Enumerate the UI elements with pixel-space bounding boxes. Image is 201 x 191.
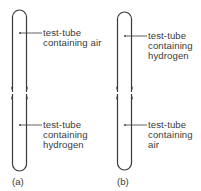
panel-a-top-label: test-tube containing air — [43, 28, 101, 48]
panel-b-caption: (b) — [117, 177, 129, 187]
panel-a-lower-tube — [13, 94, 27, 171]
panel-b-lower-tube — [118, 94, 132, 170]
panel-b-joint — [117, 86, 133, 100]
panel-a-bottom-label: test-tube containing hydrogen — [43, 120, 88, 150]
panel-b-bottom-label: test-tube containing air — [148, 120, 193, 150]
label-line: containing air — [43, 38, 101, 48]
panel-b-tubes — [117, 12, 147, 170]
panel-a-upper-tube — [13, 10, 27, 92]
panel-b-top-label: test-tube containing hydrogen — [148, 31, 193, 61]
panel-a-joint — [12, 86, 28, 100]
label-line: hydrogen — [148, 51, 193, 61]
panel-a-caption: (a) — [12, 177, 24, 187]
panel-b-upper-tube — [118, 12, 132, 92]
panel-a-tubes — [12, 10, 42, 171]
label-line: hydrogen — [43, 140, 88, 150]
label-line: air — [148, 140, 193, 150]
